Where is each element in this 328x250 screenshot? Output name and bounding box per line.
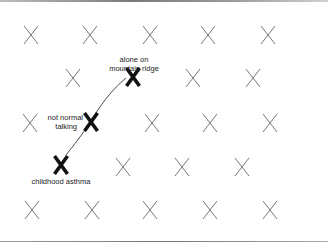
x-mark-icon (145, 114, 159, 132)
x-mark-icon (263, 114, 277, 132)
x-mark-icon (203, 114, 217, 132)
x-mark-icon (66, 69, 80, 87)
x-mark-icon (116, 158, 130, 176)
bottom-border (0, 241, 328, 242)
x-mark-icon (201, 26, 215, 44)
x-mark-icon (246, 69, 260, 87)
x-mark-icon (83, 26, 97, 44)
x-mark-icon (23, 114, 37, 132)
x-mark-icon (24, 26, 38, 44)
label-not-normal-talking: not normal talking (43, 113, 83, 131)
bold-x-mark-icon (55, 156, 68, 174)
x-mark-icon (235, 158, 249, 176)
x-mark-icon (263, 201, 277, 219)
x-mark-icon (175, 158, 189, 176)
x-mark-icon (186, 69, 200, 87)
label-alone-on-mountain-ridge: alone on mountain ridge (104, 55, 164, 73)
x-mark-icon (143, 26, 157, 44)
label-line: talking (43, 122, 83, 131)
x-mark-icon (85, 201, 99, 219)
x-mark-icon (143, 201, 157, 219)
label-line: not normal (43, 113, 83, 122)
bold-x-mark-icon (85, 113, 98, 131)
label-line: childhood asthma (31, 177, 91, 186)
label-childhood-asthma: childhood asthma (31, 177, 91, 186)
x-mark-icon (25, 201, 39, 219)
x-mark-icon (203, 201, 217, 219)
label-line: alone on (104, 55, 164, 64)
x-mark-icon (261, 26, 275, 44)
label-line: mountain ridge (104, 64, 164, 73)
